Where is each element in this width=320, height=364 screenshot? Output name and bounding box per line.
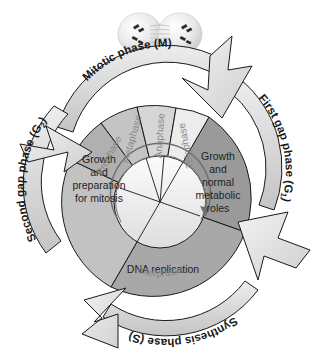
svg-text:roles: roles bbox=[207, 202, 230, 214]
cell-cycle-diagram: Mitotic phase (M) First gap phase (G1) S… bbox=[0, 0, 320, 364]
svg-text:Growth: Growth bbox=[201, 150, 235, 162]
svg-text:metabolic: metabolic bbox=[196, 189, 241, 201]
svg-text:for mitosis: for mitosis bbox=[75, 192, 123, 204]
svg-text:and: and bbox=[209, 163, 227, 175]
svg-text:preparation: preparation bbox=[72, 179, 125, 191]
cell-cycle-figure: Mitotic phase (M) First gap phase (G1) S… bbox=[0, 0, 320, 364]
svg-text:normal: normal bbox=[202, 176, 234, 188]
